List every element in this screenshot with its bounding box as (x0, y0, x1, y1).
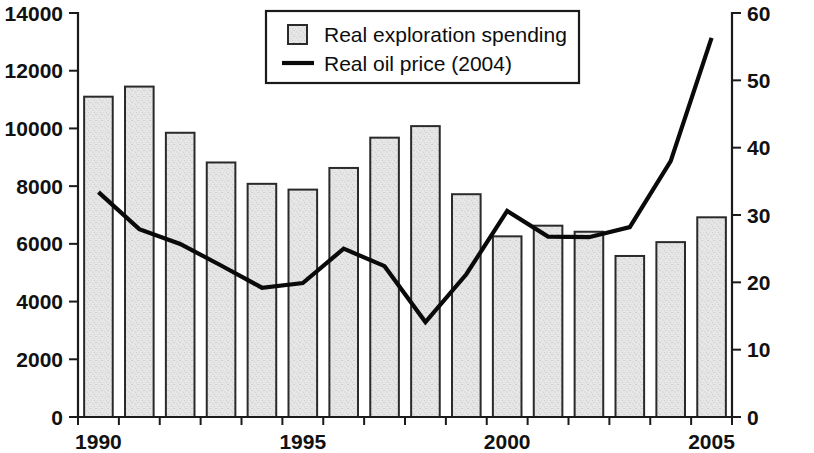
x-tick-label: 1990 (75, 430, 122, 453)
bar-1998 (411, 126, 440, 417)
right-tick-label: 20 (747, 271, 770, 294)
left-tick-label: 8000 (16, 175, 63, 198)
x-tick-label: 2000 (484, 430, 531, 453)
left-tick-label: 14000 (5, 2, 63, 25)
bar-1990 (84, 97, 113, 417)
legend-label-oil-price: Real oil price (2004) (324, 52, 512, 75)
bar-2001 (534, 226, 563, 417)
right-tick-label: 30 (747, 204, 770, 227)
x-axis-ticks: 1990199520002005 (75, 417, 735, 453)
right-tick-label: 10 (747, 338, 770, 361)
left-tick-label: 10000 (5, 117, 63, 140)
bar-1992 (166, 133, 195, 417)
left-tick-label: 2000 (16, 348, 63, 371)
right-axis-ticks: 0102030405060 (732, 2, 770, 429)
left-tick-label: 4000 (16, 290, 63, 313)
bar-2003 (616, 256, 645, 417)
bar-2004 (656, 242, 685, 417)
bar-2000 (493, 236, 522, 417)
bar-1995 (289, 190, 318, 417)
bar-2002 (575, 232, 604, 417)
bar-1993 (207, 162, 236, 417)
right-tick-label: 40 (747, 136, 770, 159)
bar-series-real-exploration-spending (84, 87, 726, 417)
left-tick-label: 0 (51, 406, 63, 429)
bar-1994 (248, 184, 277, 417)
right-tick-label: 50 (747, 69, 770, 92)
left-axis-ticks: 02000400060008000100001200014000 (5, 2, 78, 429)
bar-1991 (125, 87, 154, 417)
chart-legend: Real exploration spendingReal oil price … (266, 11, 579, 83)
left-tick-label: 6000 (16, 232, 63, 255)
chart-container: 02000400060008000100001200014000 0102030… (0, 0, 814, 453)
bar-2005 (697, 217, 726, 417)
bar-1996 (329, 168, 358, 417)
x-tick-label: 1995 (279, 430, 326, 453)
left-tick-label: 12000 (5, 59, 63, 82)
dual-axis-bar-line-chart: 02000400060008000100001200014000 0102030… (0, 0, 814, 453)
bar-1999 (452, 194, 481, 417)
right-tick-label: 0 (747, 406, 759, 429)
x-tick-label: 2005 (688, 430, 735, 453)
legend-swatch-icon (288, 25, 307, 44)
right-tick-label: 60 (747, 2, 770, 25)
legend-label-exploration-spending: Real exploration spending (324, 23, 567, 46)
